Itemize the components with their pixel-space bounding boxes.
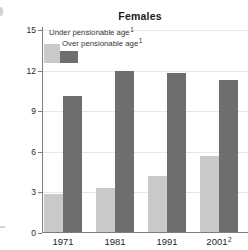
y-tick-9 [38,111,42,112]
y-tick-15 [38,30,42,31]
x-axis-label-1971: 1971 [37,236,89,247]
bar-over-1991 [167,73,186,233]
bar-under-1991 [148,176,167,233]
y-tick-0 [38,233,42,234]
y-tick-12 [38,71,42,72]
legend-label-under-pensionable-age: Under pensionable age1 [49,28,134,37]
x-axis-line [42,232,248,233]
footnote-marker: 1 [130,26,134,33]
y-axis-line [42,27,43,233]
y-axis-label-15: 15 [12,25,36,35]
females-bar-chart: Females 0369121519711981199120012 Under … [0,0,248,250]
x-axis-label-2001: 20012 [193,236,245,247]
bar-over-2001 [219,80,238,233]
bar-under-1971 [44,194,63,233]
y-tick-3 [38,192,42,193]
bar-over-1971 [63,96,82,233]
x-axis-label-1991: 1991 [141,236,193,247]
bar-under-1981 [96,188,115,233]
x-axis-label-1981: 1981 [89,236,141,247]
footnote-marker: 2 [228,236,232,243]
y-axis-label-0: 0 [12,228,36,238]
y-axis-label-9: 9 [12,106,36,116]
y-axis-label-6: 6 [12,147,36,157]
bar-over-1981 [115,71,134,233]
y-axis-label-12: 12 [12,66,36,76]
legend-swatch-over-pensionable-age [60,51,78,63]
y-tick-6 [38,152,42,153]
footnote-marker: 1 [139,37,143,44]
legend-label-over-pensionable-age: Over pensionable age1 [62,39,142,48]
y-axis-label-3: 3 [12,187,36,197]
gridline-12 [43,71,248,72]
legend-swatch-under-pensionable-age [44,44,60,63]
bar-under-2001 [200,156,219,233]
plot-area: 0369121519711981199120012 [0,0,248,250]
